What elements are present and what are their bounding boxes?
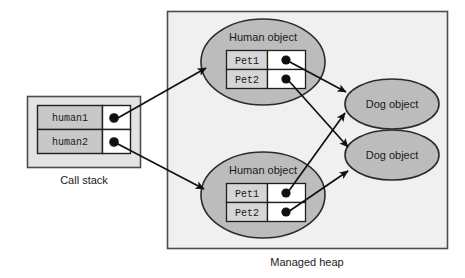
- human-object-bottom-label: Human object: [229, 164, 297, 176]
- dog-object-top[interactable]: Dog object: [345, 79, 439, 129]
- call-stack-group: human1 human2 Call stack: [28, 97, 141, 187]
- call-stack-human2-pointer-dot: [109, 137, 119, 147]
- dog-object-top-label: Dog object: [366, 98, 419, 110]
- human-object-bottom-fields: Pet1 Pet2: [227, 184, 306, 222]
- object-reference-diagram: Managed heap Human object Pet1 Pet2: [0, 0, 465, 278]
- call-stack-caption: Call stack: [60, 174, 108, 186]
- human-bottom-pet2-label: Pet2: [235, 208, 259, 219]
- call-stack-human2-label: human2: [52, 137, 88, 148]
- call-stack-human1-label: human1: [52, 113, 88, 124]
- human-object-top-label: Human object: [229, 31, 297, 43]
- managed-heap-caption: Managed heap: [270, 256, 343, 268]
- human-object-bottom[interactable]: Human object Pet1 Pet2: [201, 152, 325, 238]
- human-top-pet1-label: Pet1: [235, 56, 259, 67]
- human-top-pet2-label: Pet2: [235, 75, 259, 86]
- diagram-root: Managed heap Human object Pet1 Pet2: [0, 0, 465, 278]
- human-object-top-fields: Pet1 Pet2: [227, 51, 306, 89]
- human-object-top[interactable]: Human object Pet1 Pet2: [201, 19, 325, 105]
- human-top-pet1-pointer-dot: [281, 55, 290, 64]
- human-bottom-pet1-label: Pet1: [235, 189, 259, 200]
- dog-object-bottom[interactable]: Dog object: [345, 130, 439, 180]
- dog-object-bottom-label: Dog object: [366, 149, 419, 161]
